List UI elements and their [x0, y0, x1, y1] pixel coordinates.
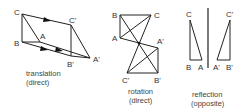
translation-diagram: C B A C' B' A' translation (direct): [14, 8, 100, 87]
triangle-a-prime-b-prime-c-prime: [217, 20, 230, 60]
transformations-diagram: C B A C' B' A' translation (direct) B C …: [0, 0, 246, 112]
label-c-prime: C': [226, 10, 234, 19]
caption-reflection-type: (opposite): [191, 99, 225, 108]
centre-of-rotation: [138, 42, 141, 45]
triangle-abc: [190, 20, 202, 60]
rotation-diagram: B C A A' C' B' rotation (direct): [112, 11, 164, 105]
label-b: B: [14, 39, 19, 48]
label-a: A: [112, 34, 118, 43]
label-b: B: [112, 11, 117, 20]
label-b-prime: B': [154, 76, 161, 85]
label-c-prime: C': [69, 16, 77, 25]
label-b-prime: B': [67, 60, 74, 69]
caption-rotation-type: (direct): [129, 96, 153, 105]
label-b: B: [186, 63, 191, 72]
triangle-abc: [22, 14, 40, 42]
caption-reflection: reflection: [192, 90, 222, 99]
caption-translation: translation: [26, 69, 61, 78]
label-c-prime: C': [122, 76, 130, 85]
label-b-prime: B': [226, 63, 233, 72]
label-c: C: [154, 11, 160, 20]
label-c: C: [186, 10, 192, 19]
caption-translation-type: (direct): [26, 78, 50, 87]
label-a: A: [198, 63, 204, 72]
label-c: C: [14, 8, 20, 17]
reflection-diagram: C B A C' A' B' reflection (opposite): [186, 8, 234, 108]
arrowhead-icon: [43, 17, 51, 22]
label-a-prime: A': [157, 37, 164, 46]
label-a: A: [40, 32, 46, 41]
arrowhead-icon: [40, 46, 48, 51]
label-a-prime: A': [93, 55, 100, 64]
caption-rotation: rotation: [128, 87, 153, 96]
label-a-prime: A': [213, 63, 220, 72]
